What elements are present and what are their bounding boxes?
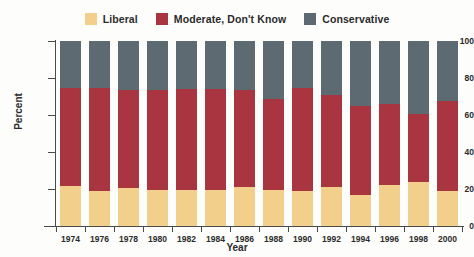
bar-segment-liberal [350,195,371,226]
x-axis-tick [317,226,318,232]
legend-entry: Moderate, Don't Know [156,13,286,25]
x-axis-tick [230,226,231,232]
bar-segment-liberal [60,186,81,226]
bar-segment-moderate [292,88,313,191]
bar-segment-liberal [321,187,342,226]
x-axis-line [44,226,464,227]
y-axis-tick [48,41,55,42]
bar-segment-liberal [176,190,197,226]
x-axis-tick-label: 2000 [428,234,468,244]
x-axis-tick [172,226,173,232]
bar-segment-conservative [118,41,139,90]
bar-segment-conservative [350,41,371,106]
legend-label: Conservative [322,13,389,25]
bar-segment-liberal [234,187,255,226]
bar-segment-moderate [89,88,110,191]
bar-group [350,41,371,226]
x-axis-tick [375,226,376,232]
bar-group [379,41,400,226]
bar-segment-liberal [379,185,400,226]
bar-segment-moderate [350,106,371,195]
legend-entry: Conservative [304,13,389,25]
plot-area [56,41,462,226]
y-axis-tick [48,226,55,227]
bar-segment-moderate [234,90,255,187]
stacked-bar-chart: LiberalModerate, Don't KnowConservative … [0,0,474,257]
bar-segment-moderate [437,101,458,191]
x-axis-tick [433,226,434,232]
bar-group [89,41,110,226]
y-axis-label: Percent [13,72,24,152]
bar-group [263,41,284,226]
bar-group [408,41,429,226]
bar-group [205,41,226,226]
y-axis-tick [48,78,55,79]
bar-segment-conservative [176,41,197,89]
bar-group [118,41,139,226]
bar-group [60,41,81,226]
x-axis-tick [201,226,202,232]
bar-segment-moderate [379,104,400,185]
x-axis-tick [346,226,347,232]
bar-segment-conservative [408,41,429,114]
bar-group [437,41,458,226]
bar-segment-conservative [321,41,342,95]
bar-group [321,41,342,226]
bar-segment-conservative [437,41,458,101]
bar-segment-liberal [89,191,110,226]
bar-segment-conservative [292,41,313,88]
x-axis-tick [143,226,144,232]
legend-swatch-conservative [304,13,316,25]
legend-entry: Liberal [85,13,138,25]
bar-segment-liberal [147,190,168,226]
chart-legend: LiberalModerate, Don't KnowConservative [0,8,474,30]
bar-segment-conservative [147,41,168,90]
bar-segment-moderate [60,88,81,186]
bar-segment-conservative [234,41,255,90]
x-axis-tick [56,226,57,232]
bar-segment-moderate [321,95,342,188]
bar-segment-conservative [60,41,81,88]
bar-segment-moderate [118,90,139,188]
y-axis-tick [48,152,55,153]
x-axis-tick [85,226,86,232]
bar-segment-moderate [205,89,226,190]
bar-segment-moderate [176,89,197,190]
bar-segment-moderate [147,90,168,190]
y-axis-tick [48,115,55,116]
bar-group [147,41,168,226]
bar-segment-conservative [89,41,110,88]
bar-segment-liberal [118,188,139,226]
bar-segment-conservative [205,41,226,89]
x-axis-tick [462,226,463,232]
y-axis-tick [48,189,55,190]
bar-segment-liberal [408,182,429,226]
x-axis-tick [114,226,115,232]
x-axis-tick [288,226,289,232]
legend-label: Moderate, Don't Know [174,13,286,25]
bar-group [234,41,255,226]
legend-swatch-liberal [85,13,97,25]
x-axis-tick [259,226,260,232]
bar-group [292,41,313,226]
bar-segment-liberal [263,190,284,226]
bar-segment-moderate [408,114,429,182]
bar-segment-liberal [437,191,458,226]
bar-segment-liberal [205,190,226,226]
bar-group [176,41,197,226]
legend-swatch-moderate [156,13,168,25]
bar-segment-conservative [263,41,284,99]
legend-label: Liberal [103,13,138,25]
bar-segment-liberal [292,191,313,226]
x-axis-tick [404,226,405,232]
bar-segment-moderate [263,99,284,190]
bar-segment-conservative [379,41,400,104]
